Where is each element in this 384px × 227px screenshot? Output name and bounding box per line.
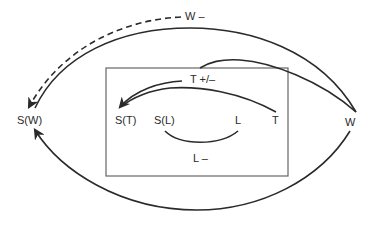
- state-diagram: S(W) W S(T) S(L) L T W – T +/– L –: [0, 0, 384, 227]
- edge-label-l-minus: L –: [193, 152, 209, 164]
- edge-label-t-plus-minus: T +/–: [190, 73, 216, 85]
- node-w: W: [345, 116, 356, 128]
- node-st: S(T): [115, 114, 136, 126]
- edge-w-upper-arc: [35, 28, 356, 112]
- edge-l-minus: [165, 131, 238, 142]
- edge-t-to-st: [122, 88, 276, 112]
- node-t: T: [272, 114, 279, 126]
- node-sw: S(W): [17, 114, 42, 126]
- node-sl: S(L): [154, 114, 175, 126]
- edge-t-plus-minus: [120, 81, 182, 107]
- node-l: L: [235, 114, 241, 126]
- edge-label-w-minus: W –: [185, 10, 205, 22]
